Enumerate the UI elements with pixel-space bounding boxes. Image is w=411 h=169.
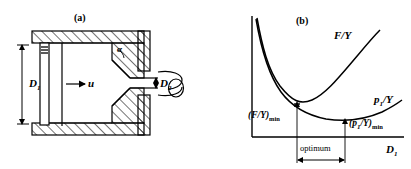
label-F-over-Y-min-sub: min [269,115,280,122]
label-F-over-Y-min: (F/Y)min [248,110,280,122]
nozzle-flange-upper [138,31,150,71]
curve-label-p1-tail: /Y [383,93,393,105]
label-p1-min-pre: (p [349,118,357,128]
label-p1-min-sub2: min [372,123,383,130]
label-D2-text: D [160,77,168,89]
panel-b-plot [252,16,404,163]
panel-a-drawing [17,31,184,135]
axis-label-D1-text: D [386,143,394,155]
label-p1-over-Y-min: (p1/Y)min [349,118,383,131]
label-nozzle-angle-alpha: α [117,44,122,54]
dimension-D1 [17,45,29,124]
curve-F-over-Y [257,18,380,102]
label-D1: D1 [29,77,40,92]
panel-b-label: (b) [296,15,308,26]
label-velocity-u: u [88,77,94,89]
label-D1-sub: 1 [37,84,41,92]
cylinder-top-wall [32,31,144,43]
fluid-chamber [47,43,112,123]
tick-F-over-Y-min [294,101,300,137]
panel-a-label: (a) [74,12,86,23]
curve-label-p1-over-Y: p1/Y [374,93,393,108]
label-D1-text: D [29,77,37,89]
figure-canvas [0,0,411,169]
curve-label-F-over-Y: F/Y [334,29,351,41]
figure-root: (a) D1 D2 u α (b) F/Y p1/Y (F/Y)min (p1/… [0,0,411,169]
axis-label-D1-sub: 1 [394,150,398,158]
axis-label-D1: D1 [386,143,397,158]
label-optimum-range: optimum [300,143,331,153]
label-p1-min-mid: /Y) [360,118,372,128]
label-F-over-Y-min-pre: (F/Y) [248,110,269,120]
piston [40,43,49,125]
label-D2: D2 [160,77,171,92]
nozzle-flange-lower [138,95,150,135]
label-D2-sub: 2 [168,84,172,92]
